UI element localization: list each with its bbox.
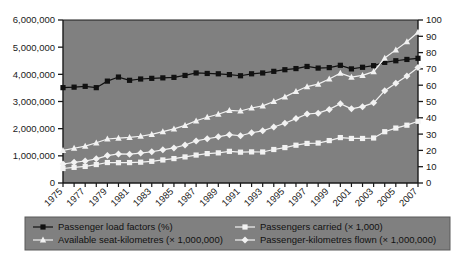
data-point-marker bbox=[94, 162, 99, 167]
data-point-marker bbox=[227, 72, 232, 77]
x-axis-tick-label: 2007 bbox=[397, 186, 420, 209]
data-point-marker bbox=[116, 74, 121, 79]
data-point-marker bbox=[249, 71, 254, 76]
legend-label: Passenger load factors (%) bbox=[58, 221, 173, 232]
data-point-marker bbox=[249, 149, 254, 154]
data-point-marker bbox=[94, 85, 99, 90]
data-point-marker bbox=[71, 85, 76, 90]
x-axis-tick-label: 1999 bbox=[308, 186, 331, 209]
data-point-marker bbox=[271, 147, 276, 152]
data-point-marker bbox=[415, 119, 420, 124]
data-point-marker bbox=[238, 73, 243, 78]
data-point-marker bbox=[138, 76, 143, 81]
data-point-marker bbox=[116, 160, 121, 165]
legend-label: Passengers carried (× 1,000) bbox=[260, 221, 383, 232]
data-point-marker bbox=[83, 164, 88, 169]
data-point-marker bbox=[371, 63, 376, 68]
data-point-marker bbox=[360, 136, 365, 141]
x-axis-tick-label: 1985 bbox=[153, 186, 176, 209]
x-axis-tick-label: 1997 bbox=[286, 186, 309, 209]
data-point-marker bbox=[60, 85, 65, 90]
data-point-marker bbox=[40, 224, 45, 229]
data-point-marker bbox=[149, 159, 154, 164]
data-point-marker bbox=[242, 224, 247, 229]
data-point-marker bbox=[182, 154, 187, 159]
data-point-marker bbox=[293, 66, 298, 71]
data-point-marker bbox=[404, 57, 409, 62]
data-point-marker bbox=[160, 75, 165, 80]
data-point-marker bbox=[260, 149, 265, 154]
x-axis-tick-label: 1989 bbox=[197, 186, 220, 209]
data-point-marker bbox=[227, 149, 232, 154]
data-point-marker bbox=[194, 152, 199, 157]
data-point-marker bbox=[205, 151, 210, 156]
data-point-marker bbox=[282, 67, 287, 72]
y-axis-tick-label: 2,000,000 bbox=[13, 123, 55, 134]
x-axis-tick-label: 1979 bbox=[86, 186, 109, 209]
y2-axis-tick-label: 80 bbox=[426, 47, 437, 58]
x-axis-tick-label: 1981 bbox=[108, 186, 131, 209]
data-point-marker bbox=[194, 70, 199, 75]
x-axis-tick-label: 1975 bbox=[42, 186, 65, 209]
data-point-marker bbox=[260, 70, 265, 75]
y2-axis-tick-label: 100 bbox=[426, 14, 442, 25]
y2-axis-tick-label: 40 bbox=[426, 112, 437, 123]
data-point-marker bbox=[316, 140, 321, 145]
data-point-marker bbox=[216, 71, 221, 76]
x-axis-tick-label: 2005 bbox=[374, 186, 397, 209]
y2-axis-tick-label: 50 bbox=[426, 96, 437, 107]
y2-axis-tick-label: 60 bbox=[426, 80, 437, 91]
data-point-marker bbox=[182, 73, 187, 78]
data-point-marker bbox=[205, 71, 210, 76]
data-point-marker bbox=[271, 69, 276, 74]
legend-label: Passenger-kilometres flown (× 1,000,000) bbox=[260, 234, 436, 245]
data-point-marker bbox=[404, 123, 409, 128]
data-point-marker bbox=[83, 84, 88, 89]
x-axis-tick-label: 2003 bbox=[352, 186, 375, 209]
data-point-marker bbox=[138, 160, 143, 165]
x-axis-tick-label: 1977 bbox=[64, 186, 87, 209]
data-point-marker bbox=[371, 135, 376, 140]
data-point-marker bbox=[238, 150, 243, 155]
legend-item[interactable]: Available seat-kilometres (× 1,000,000) bbox=[33, 234, 223, 245]
data-point-marker bbox=[360, 65, 365, 70]
line-chart: 01,000,0002,000,0003,000,0004,000,0005,0… bbox=[0, 0, 467, 258]
x-axis-tick-label: 1993 bbox=[241, 186, 264, 209]
y2-axis-tick-label: 20 bbox=[426, 145, 437, 156]
data-point-marker bbox=[127, 160, 132, 165]
y2-axis-tick-label: 90 bbox=[426, 31, 437, 42]
y-axis-tick-label: 6,000,000 bbox=[13, 14, 55, 25]
y2-axis-tick-label: 70 bbox=[426, 63, 437, 74]
y2-axis-tick-label: 30 bbox=[426, 129, 437, 140]
x-axis-tick-label: 2001 bbox=[330, 186, 353, 209]
data-point-marker bbox=[149, 76, 154, 81]
x-axis-tick-label: 1995 bbox=[264, 186, 287, 209]
data-point-marker bbox=[393, 58, 398, 63]
data-point-marker bbox=[327, 138, 332, 143]
data-point-marker bbox=[171, 75, 176, 80]
legend-label: Available seat-kilometres (× 1,000,000) bbox=[58, 234, 223, 245]
x-axis-tick-label: 1987 bbox=[175, 186, 198, 209]
data-point-marker bbox=[105, 160, 110, 165]
chart-container: 01,000,0002,000,0003,000,0004,000,0005,0… bbox=[0, 0, 467, 258]
data-point-marker bbox=[349, 136, 354, 141]
data-point-marker bbox=[338, 63, 343, 68]
y-axis-tick-label: 3,000,000 bbox=[13, 96, 55, 107]
data-point-marker bbox=[293, 143, 298, 148]
y2-axis-tick-label: 10 bbox=[426, 161, 437, 172]
y-axis-tick-label: 4,000,000 bbox=[13, 69, 55, 80]
plot-area-background bbox=[63, 20, 418, 183]
x-axis-tick-label: 1991 bbox=[219, 186, 242, 209]
data-point-marker bbox=[415, 56, 420, 61]
legend-item[interactable]: Passenger-kilometres flown (× 1,000,000) bbox=[235, 234, 436, 245]
data-point-marker bbox=[349, 66, 354, 71]
y-axis-tick-label: 5,000,000 bbox=[13, 42, 55, 53]
data-point-marker bbox=[282, 145, 287, 150]
data-point-marker bbox=[327, 65, 332, 70]
data-point-marker bbox=[382, 129, 387, 134]
data-point-marker bbox=[338, 135, 343, 140]
data-point-marker bbox=[105, 79, 110, 84]
data-point-marker bbox=[127, 78, 132, 83]
data-point-marker bbox=[160, 157, 165, 162]
y2-axis-tick-label: 0 bbox=[426, 177, 431, 188]
